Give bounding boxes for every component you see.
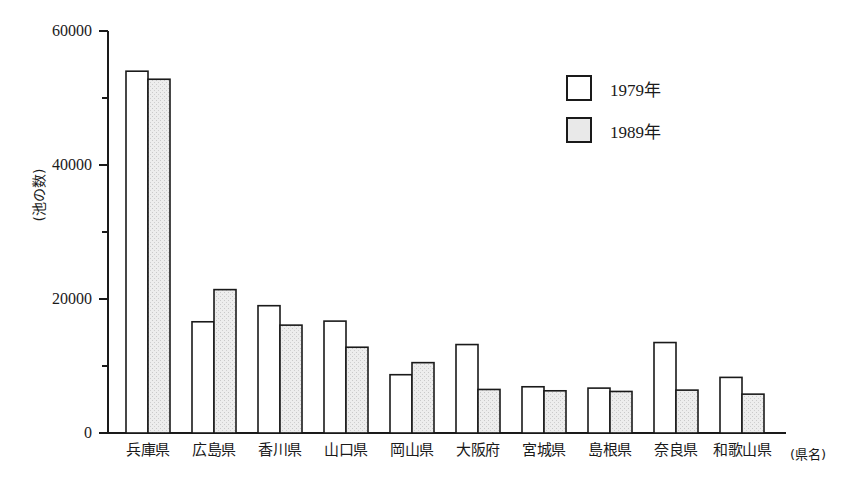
bar-1989 bbox=[148, 79, 170, 433]
bar-1989 bbox=[280, 325, 302, 433]
bar-1989 bbox=[610, 391, 632, 433]
bar-group bbox=[126, 71, 170, 433]
legend-swatch-icon-1989 bbox=[566, 117, 592, 143]
legend-swatch-icon-1979 bbox=[566, 75, 592, 101]
bar-1979 bbox=[126, 71, 148, 433]
bar-group bbox=[192, 290, 236, 433]
legend-label-1989: 1989年 bbox=[610, 118, 661, 143]
bar-1979 bbox=[258, 306, 280, 433]
bar-group bbox=[258, 306, 302, 433]
legend-item-1979: 1979年 bbox=[566, 72, 736, 104]
bar-1979 bbox=[654, 343, 676, 433]
bar-1979 bbox=[588, 388, 610, 433]
bar-1989 bbox=[346, 347, 368, 433]
bar-1989 bbox=[676, 390, 698, 433]
bar-group bbox=[456, 345, 500, 433]
x-axis-category-labels: 兵庫県広島県香川県山口県岡山県大阪府宮城県島根県奈良県和歌山県 bbox=[0, 440, 850, 470]
legend-label-1979: 1979年 bbox=[610, 76, 661, 101]
x-category-label: 和歌山県 bbox=[697, 440, 787, 460]
x-axis-title: (県名) bbox=[790, 444, 826, 463]
bar-1989 bbox=[478, 389, 500, 433]
bar-group bbox=[654, 343, 698, 433]
legend-item-1989: 1989年 bbox=[566, 114, 736, 146]
bar-group bbox=[720, 377, 764, 433]
bar-1989 bbox=[214, 290, 236, 433]
bar-1979 bbox=[192, 322, 214, 433]
bar-1979 bbox=[522, 387, 544, 433]
bar-chart: (池の数) 0 20000 40000 60000 兵庫県広島県香川県山口県岡山… bbox=[0, 0, 850, 486]
bar-1989 bbox=[544, 391, 566, 433]
bar-1979 bbox=[324, 321, 346, 433]
bar-1979 bbox=[720, 377, 742, 433]
bar-group bbox=[324, 321, 368, 433]
bar-1989 bbox=[742, 394, 764, 433]
bar-group bbox=[522, 387, 566, 433]
bar-1979 bbox=[390, 375, 412, 433]
bar-group bbox=[390, 363, 434, 433]
bar-1989 bbox=[412, 363, 434, 433]
legend: 1979年 1989年 bbox=[566, 72, 736, 156]
bar-1979 bbox=[456, 345, 478, 433]
bar-group bbox=[588, 388, 632, 433]
